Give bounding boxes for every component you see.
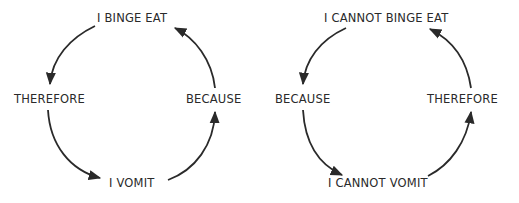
right-left-label: BECAUSE: [275, 92, 330, 106]
arrow-bottom-to-right: [168, 112, 215, 180]
left-right-label: BECAUSE: [186, 92, 241, 106]
arrow-bottom-to-right: [428, 112, 471, 176]
left-bottom-label: I VOMIT: [109, 176, 155, 190]
right-right-label: THEREFORE: [427, 92, 498, 106]
right-bottom-label: I CANNOT VOMIT: [328, 176, 428, 190]
left-top-label: I BINGE EAT: [97, 11, 167, 25]
arrow-right-to-top: [175, 28, 215, 88]
right-top-label: I CANNOT BINGE EAT: [324, 11, 448, 25]
arrow-top-to-left: [50, 26, 95, 84]
arrow-left-to-bottom: [48, 110, 100, 178]
arrow-top-to-left: [303, 28, 346, 84]
arrow-right-to-top: [430, 29, 471, 88]
arrow-left-to-bottom: [303, 110, 342, 175]
left-left-label: THEREFORE: [14, 92, 85, 106]
